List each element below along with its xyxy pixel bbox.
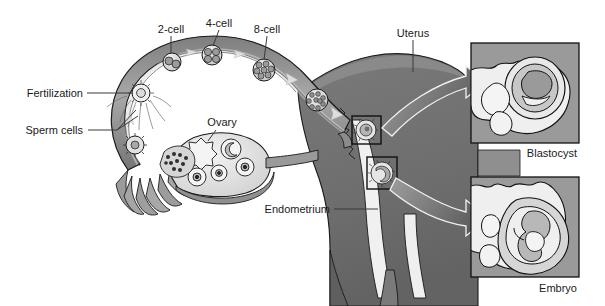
- label-fertilization: Fertilization: [27, 87, 83, 99]
- stage-cell-8: [253, 59, 275, 81]
- stage-cell-4: [202, 45, 222, 65]
- label-sperm-cells: Sperm cells: [26, 124, 84, 136]
- label-uterus: Uterus: [397, 27, 430, 39]
- inset-blastocyst: Blastocyst: [471, 43, 579, 159]
- diagram-canvas: Blastocyst Embryo: [0, 0, 605, 306]
- stage-cell-2: [163, 53, 181, 71]
- inset-caption-blastocyst: Blastocyst: [527, 147, 577, 159]
- label-eight-cell: 8-cell: [254, 23, 280, 35]
- reproductive-tract-diagram: Blastocyst Embryo: [0, 0, 605, 306]
- stage-cell-morula: [306, 89, 328, 111]
- inset-embryo: Embryo: [471, 177, 579, 294]
- corpus-luteum: [160, 146, 195, 177]
- label-four-cell: 4-cell: [206, 17, 232, 29]
- ovulated-egg: [123, 133, 147, 157]
- label-endometrium: Endometrium: [265, 203, 330, 215]
- inset-caption-embryo: Embryo: [539, 282, 577, 294]
- label-two-cell: 2-cell: [158, 23, 184, 35]
- label-ovary: Ovary: [207, 116, 237, 128]
